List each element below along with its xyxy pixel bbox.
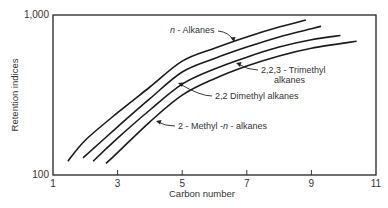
x-tick-label: 3 — [115, 178, 121, 189]
svg-text:n - Alkanes: n - Alkanes — [170, 25, 215, 35]
retention-index-chart: 1,000 100 Retention indices 1357911 Carb… — [0, 0, 388, 208]
annotation-n-alkanes: n - Alkanes — [170, 25, 236, 42]
svg-text:2 - Methyl -n - alkanes: 2 - Methyl -n - alkanes — [178, 121, 268, 131]
annotation-2-methyl: 2 - Methyl -n - alkanes — [156, 120, 268, 131]
x-axis-ticks: 1357911 — [50, 170, 381, 189]
dimethyl-label: 2,2 Dimethyl alkanes — [215, 91, 299, 101]
x-axis-title: Carbon number — [169, 188, 235, 199]
methyl-label-suffix: - alkanes — [228, 121, 268, 131]
x-tick-label: 9 — [309, 178, 315, 189]
arrow-n-alkanes — [218, 31, 234, 41]
y-axis-title: Retention indices — [9, 58, 20, 131]
y-tick-label-top: 1,000 — [24, 9, 49, 20]
trimethyl-label-line2: alkanes — [274, 75, 306, 85]
methyl-label-prefix: 2 - Methyl - — [178, 121, 223, 131]
annotation-dimethyl: 2,2 Dimethyl alkanes — [178, 83, 299, 102]
n-alkanes-label: - Alkanes — [175, 25, 215, 35]
trimethyl-label-line1: 2,2,3 - Trimethyl — [261, 65, 326, 75]
series-curves — [68, 20, 357, 164]
series-line-2-methyl-n-alkanes — [106, 41, 357, 163]
x-tick-label: 7 — [244, 178, 250, 189]
arrowhead-icon — [236, 62, 242, 67]
x-tick-label: 1 — [50, 178, 56, 189]
y-tick-label-bottom: 100 — [32, 169, 49, 180]
x-tick-label: 11 — [371, 178, 382, 189]
